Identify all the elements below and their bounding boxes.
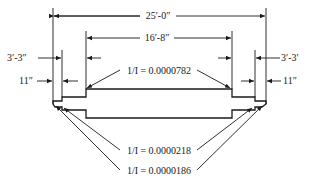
label-center-inertia: 1/I = 0.0000782: [127, 65, 191, 76]
beam-diagram: 25′-0″ 16′-8″ 3′-3″ 3′-3′ 11″ 11″ 1/I = …: [0, 0, 317, 188]
label-left-end: 11″: [19, 75, 33, 86]
label-end-inertia: 1/I = 0.0000186: [127, 165, 191, 176]
label-overall-length: 25′-0″: [146, 10, 171, 21]
label-right-step: 3′-3′: [281, 52, 299, 63]
label-middle-inertia: 1/I = 0.0000218: [127, 145, 191, 156]
beam-outline: [53, 89, 266, 118]
label-center-length: 16′-8″: [145, 32, 170, 43]
label-right-end: 11″: [283, 75, 297, 86]
label-left-step: 3′-3″: [7, 52, 27, 63]
